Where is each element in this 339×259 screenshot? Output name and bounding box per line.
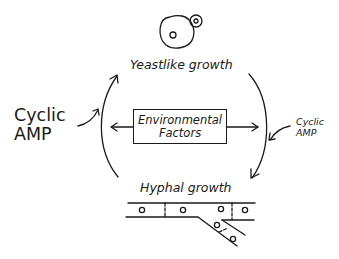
env-left-arrow bbox=[111, 123, 133, 131]
right-cyclic-amp-label: Cyclic AMP bbox=[296, 116, 324, 138]
right-cycle-arrow bbox=[249, 74, 267, 178]
right-camp-arrow bbox=[269, 126, 290, 140]
left-cyclic-amp-label: Cyclic AMP bbox=[14, 106, 66, 144]
yeast-cell-icon bbox=[160, 15, 202, 48]
env-line1: Environmental bbox=[138, 114, 222, 127]
left-camp-arrow bbox=[78, 109, 99, 126]
right-camp-line2: AMP bbox=[296, 127, 324, 138]
hypha-icon bbox=[126, 203, 255, 246]
hyphal-growth-label: Hyphal growth bbox=[140, 180, 232, 195]
env-line2: Factors bbox=[159, 127, 201, 140]
env-right-arrow bbox=[227, 123, 258, 131]
environmental-factors-box: Environmental Factors bbox=[133, 109, 227, 144]
yeast-growth-label: Yeastlike growth bbox=[130, 57, 233, 72]
left-cycle-arrow bbox=[101, 75, 118, 177]
left-camp-line1: Cyclic bbox=[14, 106, 66, 125]
left-camp-line2: AMP bbox=[14, 125, 66, 144]
right-camp-line1: Cyclic bbox=[296, 116, 324, 127]
